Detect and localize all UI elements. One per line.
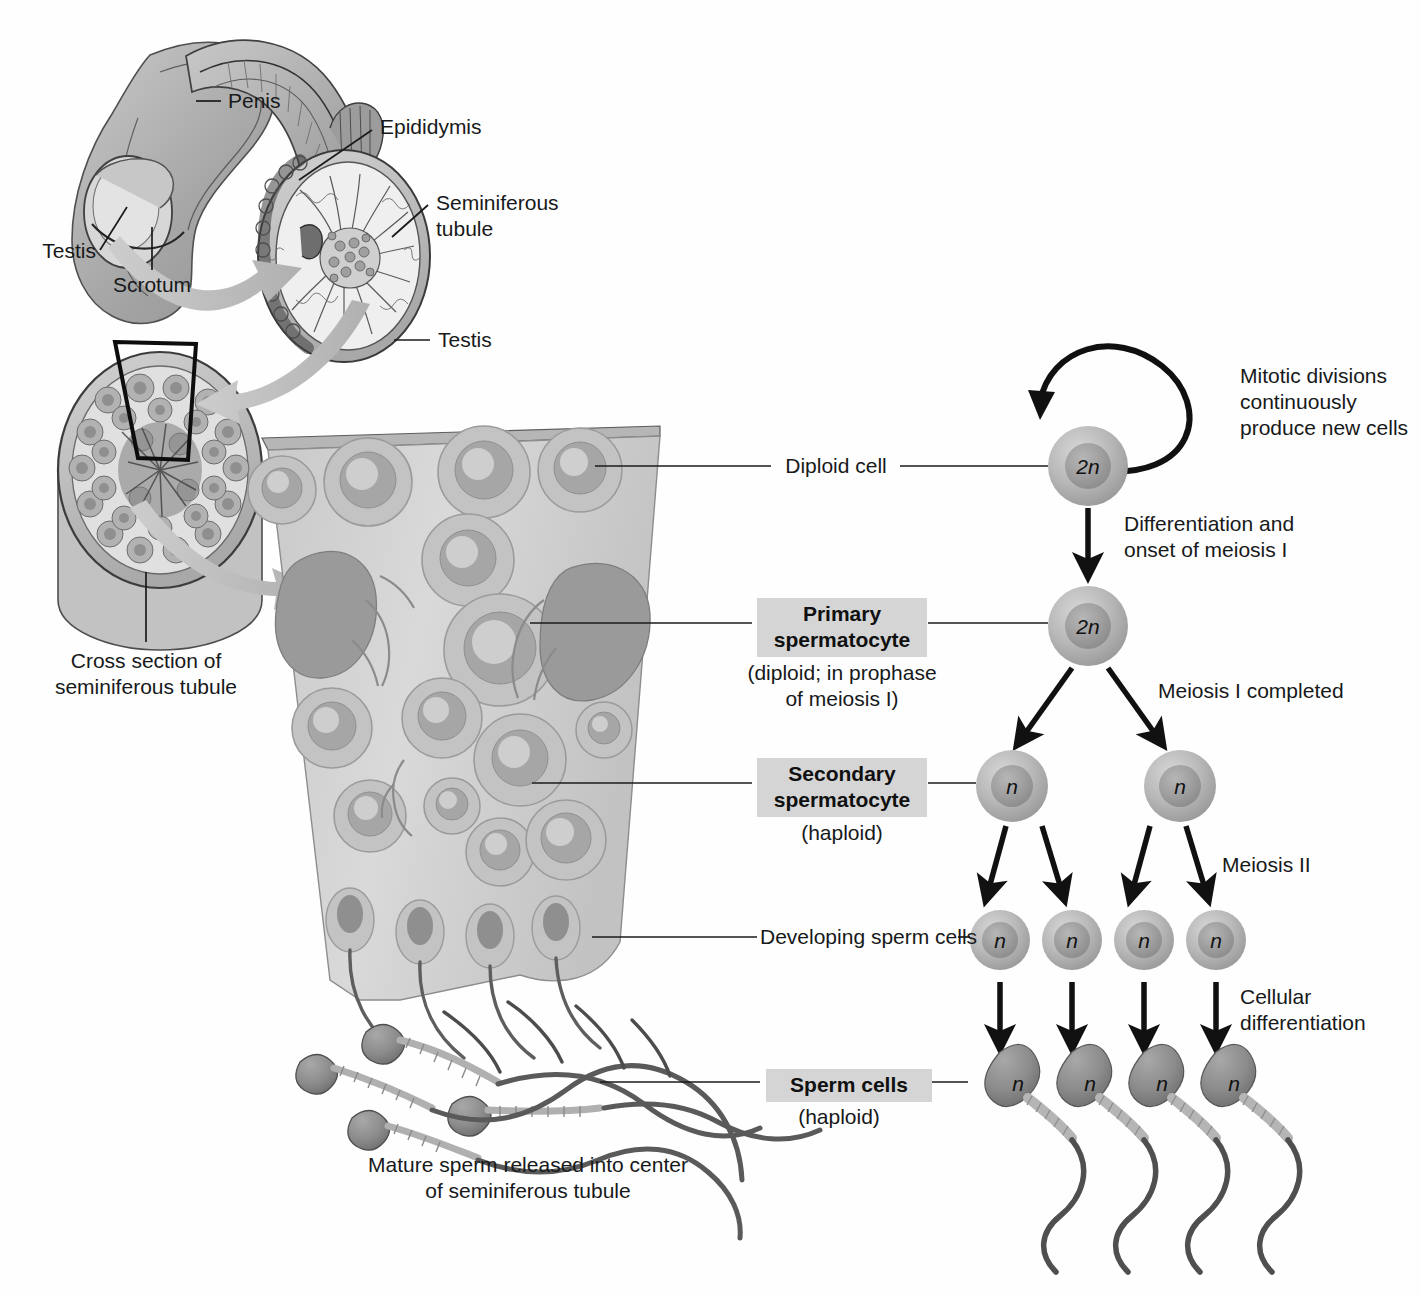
flow-arrow-2 — [196, 300, 370, 424]
process-label-cellular-differentiation: Cellular differentiation — [1240, 984, 1366, 1036]
label-penis: Penis — [228, 88, 281, 114]
stage-label-sperm-cells: Sperm cells — [766, 1069, 932, 1102]
developing-sperm-ploidy-4: n — [1202, 929, 1230, 953]
stage-label-developing-sperm-cells: Developing sperm cells — [760, 924, 960, 950]
sperm-ploidy-3: n — [1148, 1072, 1176, 1096]
diploid-stem-cell — [1048, 426, 1128, 506]
label-seminiferous-tubule: Seminiferous tubule — [436, 190, 559, 242]
tubule-cross-section-illustration — [58, 342, 262, 650]
label-testis-right: Testis — [438, 327, 492, 353]
stage-sub-sperm-cells: (haploid) — [764, 1104, 914, 1130]
division-arrows — [988, 508, 1216, 1040]
stage-label-secondary-spermatocyte: Secondary spermatocyte — [757, 758, 927, 817]
secondary-spermatocyte-ploidy-1: n — [996, 775, 1028, 799]
developing-sperm-ploidy-1: n — [986, 929, 1014, 953]
process-label-differentiation-onset: Differentiation and onset of meiosis I — [1124, 511, 1294, 563]
caption-mature-sperm: Mature sperm released into center of sem… — [328, 1152, 728, 1204]
stage-sub-primary-spermatocyte: (diploid; in prophase of meiosis I) — [742, 660, 942, 712]
developing-sperm-ploidy-2: n — [1058, 929, 1086, 953]
secondary-spermatocyte-cells — [976, 750, 1216, 822]
process-label-mitotic-divisions: Mitotic divisions continuously produce n… — [1240, 363, 1408, 441]
label-epididymis: Epididymis — [380, 114, 482, 140]
sperm-cells-group — [985, 1044, 1300, 1272]
testis-epididymis-illustration — [256, 103, 430, 362]
diploid-stem-cell-ploidy: 2n — [1068, 455, 1108, 479]
spermatogenesis-figure: 2n 2n n n n n n n n n n n Penis Testis S… — [0, 0, 1420, 1299]
developing-sperm-cells-group — [970, 910, 1246, 970]
stage-label-primary-spermatocyte: Primary spermatocyte — [757, 598, 927, 657]
mitosis-loop-arrow-icon — [1028, 346, 1189, 471]
stage-sub-secondary-spermatocyte: (haploid) — [757, 820, 927, 846]
process-label-meiosis-two: Meiosis II — [1222, 852, 1311, 878]
developing-sperm-ploidy-3: n — [1130, 929, 1158, 953]
label-scrotum: Scrotum — [76, 272, 228, 298]
primary-spermatocyte-ploidy: 2n — [1068, 615, 1108, 639]
flow-arrow-3 — [130, 500, 316, 610]
process-label-meiosis-one-completed: Meiosis I completed — [1158, 678, 1344, 704]
sperm-ploidy-4: n — [1220, 1072, 1248, 1096]
label-testis-left: Testis — [0, 238, 96, 264]
wedge-callout-outline — [115, 342, 196, 460]
primary-spermatocyte-cell — [1048, 586, 1128, 666]
sperm-ploidy-1: n — [1004, 1072, 1032, 1096]
label-cross-section: Cross section of seminiferous tubule — [18, 648, 274, 700]
secondary-spermatocyte-ploidy-2: n — [1164, 775, 1196, 799]
seminiferous-tubule-wedge-illustration — [248, 426, 660, 1058]
sperm-ploidy-2: n — [1076, 1072, 1104, 1096]
stage-label-diploid-cell: Diploid cell — [778, 453, 894, 479]
